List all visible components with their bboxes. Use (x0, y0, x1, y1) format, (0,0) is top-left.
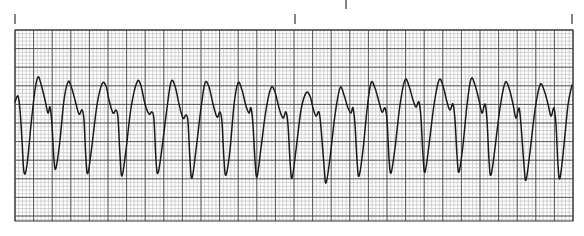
ecg-waveform-trace (15, 77, 572, 183)
time-marker-ticks (15, 0, 572, 24)
ecg-grid-major (15, 30, 573, 221)
ecg-rhythm-strip (0, 0, 584, 236)
